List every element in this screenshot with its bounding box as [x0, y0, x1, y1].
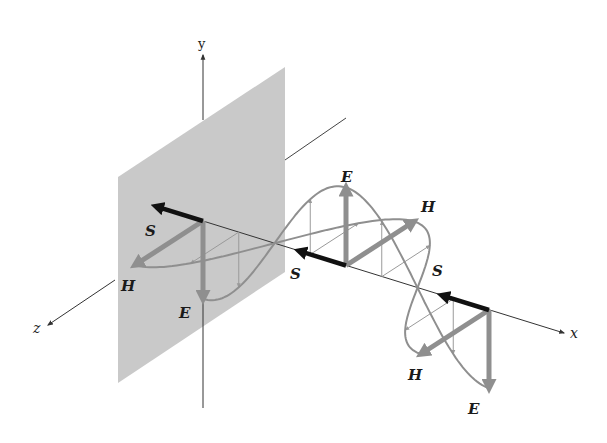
- label-S-left: S: [145, 222, 156, 240]
- label-E-mid: E: [340, 168, 353, 186]
- label-E-right: E: [467, 400, 480, 418]
- S-poynting-vector: [442, 295, 489, 310]
- z-axis-front: [48, 280, 115, 325]
- em-wave-diagram: y x z S H E E H S S H E: [0, 0, 607, 443]
- label-H-right: H: [407, 366, 423, 384]
- label-H-mid: H: [420, 198, 436, 216]
- label-H-left: H: [120, 277, 136, 295]
- z-axis-label: z: [32, 320, 41, 336]
- label-S-right: S: [432, 262, 443, 280]
- label-E-left: E: [178, 304, 191, 322]
- label-S-mid: S: [290, 265, 301, 283]
- x-axis-label: x: [570, 325, 578, 341]
- y-axis-label: y: [197, 36, 206, 51]
- z-axis-back: [285, 118, 346, 160]
- S-poynting-vector: [299, 251, 346, 266]
